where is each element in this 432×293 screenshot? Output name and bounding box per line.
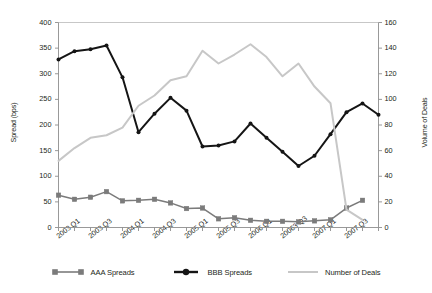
legend-swatch-aaa-spreads bbox=[51, 266, 85, 278]
data-point-marker bbox=[168, 201, 173, 206]
data-point-marker bbox=[264, 219, 269, 224]
data-point-marker bbox=[56, 193, 61, 198]
data-point-marker bbox=[265, 136, 269, 140]
data-point-marker bbox=[88, 195, 93, 200]
legend-label: AAA Spreads bbox=[90, 268, 134, 277]
legend-swatch-bbb-spreads bbox=[169, 266, 203, 278]
data-point-marker bbox=[72, 197, 77, 202]
data-point-marker bbox=[377, 113, 381, 117]
data-point-marker bbox=[217, 144, 221, 148]
chart-legend: AAA SpreadsBBB SpreadsNumber of Deals bbox=[0, 266, 432, 278]
data-point-marker bbox=[137, 130, 141, 134]
legend-label: Number of Deals bbox=[325, 268, 380, 277]
data-point-marker bbox=[89, 47, 93, 51]
data-point-marker bbox=[248, 218, 253, 223]
data-point-marker bbox=[345, 110, 349, 114]
data-point-marker bbox=[281, 150, 285, 154]
legend-swatch-number-of-deals bbox=[286, 266, 320, 278]
data-point-marker bbox=[313, 154, 317, 158]
legend-item-aaa-spreads[interactable]: AAA Spreads bbox=[51, 266, 134, 278]
data-point-marker bbox=[105, 44, 109, 48]
data-point-marker bbox=[121, 75, 125, 79]
data-point-marker bbox=[73, 49, 77, 53]
data-point-marker bbox=[185, 109, 189, 113]
chart-container: Spread (bps) Volume of Deals 40035030025… bbox=[0, 0, 432, 293]
data-point-marker bbox=[152, 197, 157, 202]
data-point-marker bbox=[232, 215, 237, 220]
data-point-marker bbox=[328, 218, 333, 223]
series-line-aaa-spreads bbox=[59, 192, 363, 222]
data-point-marker bbox=[329, 132, 333, 136]
plot-area bbox=[0, 0, 432, 293]
data-point-marker bbox=[136, 198, 141, 203]
data-point-marker bbox=[360, 198, 365, 203]
data-point-marker bbox=[153, 112, 157, 116]
data-point-marker bbox=[233, 139, 237, 143]
data-point-marker bbox=[216, 216, 221, 221]
data-point-marker bbox=[280, 219, 285, 224]
data-point-marker bbox=[296, 220, 301, 225]
data-point-marker bbox=[297, 164, 301, 168]
data-point-marker bbox=[249, 121, 253, 125]
data-point-marker bbox=[361, 101, 365, 105]
data-point-marker bbox=[200, 206, 205, 211]
data-point-marker bbox=[184, 206, 189, 211]
data-point-marker bbox=[57, 57, 61, 61]
data-point-marker bbox=[104, 189, 109, 194]
data-point-marker bbox=[312, 219, 317, 224]
data-point-marker bbox=[201, 145, 205, 149]
data-point-marker bbox=[120, 199, 125, 204]
legend-label: BBB Spreads bbox=[208, 268, 253, 277]
legend-item-number-of-deals[interactable]: Number of Deals bbox=[286, 266, 380, 278]
legend-item-bbb-spreads[interactable]: BBB Spreads bbox=[169, 266, 253, 278]
data-point-marker bbox=[169, 96, 173, 100]
